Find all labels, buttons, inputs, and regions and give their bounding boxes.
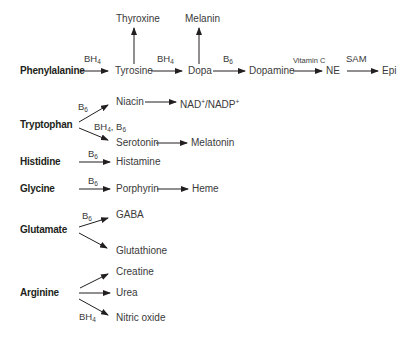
cofactor-bh4-b6-serotonin: BH4, B6 <box>94 121 126 135</box>
melatonin-label: Melatonin <box>191 137 234 149</box>
arginine-label: Arginine <box>20 287 59 299</box>
niacin-label: Niacin <box>116 96 144 108</box>
dopamine-label: Dopamine <box>249 65 295 77</box>
cofactor-sam: SAM <box>346 53 367 64</box>
arrow-arg-creatine <box>80 274 108 288</box>
nitric-oxide-label: Nitric oxide <box>116 312 165 324</box>
melanin-label: Melanin <box>185 13 220 25</box>
urea-label: Urea <box>116 287 138 299</box>
cofactor-bh4-dopa: BH4 <box>157 53 174 67</box>
cofactor-bh4-nitric-oxide: BH4 <box>79 311 96 325</box>
cofactor-vitamin-c: Vitamin C <box>293 55 325 66</box>
porphyrin-label: Porphyrin <box>116 183 159 195</box>
histidine-label: Histidine <box>20 156 60 168</box>
creatine-label: Creatine <box>116 266 154 278</box>
cofactor-b6-histamine: B6 <box>88 148 98 162</box>
dopa-label: Dopa <box>188 65 212 77</box>
arrow-glu-glutathione <box>79 233 107 248</box>
cofactor-b6-gaba: B6 <box>82 210 92 224</box>
cofactor-b6-dopamine: B6 <box>223 53 233 67</box>
tyrosine-label: Tyrosine <box>115 65 153 77</box>
phenylalanine-label: Phenylalanine <box>20 65 85 77</box>
glycine-label: Glycine <box>20 183 55 195</box>
cofactor-bh4-tyrosine: BH4 <box>84 53 101 67</box>
glutamate-label: Glutamate <box>20 224 67 236</box>
ne-label: NE <box>326 65 340 77</box>
histamine-label: Histamine <box>116 156 160 168</box>
tryptophan-label: Tryptophan <box>20 119 72 131</box>
gaba-label: GABA <box>116 209 144 221</box>
cofactor-b6-niacin: B6 <box>78 101 88 115</box>
serotonin-label: Serotonin <box>116 137 159 149</box>
epi-label: Epi <box>382 65 396 77</box>
glutathione-label: Glutathione <box>116 245 167 257</box>
heme-label: Heme <box>192 183 219 195</box>
nad-nadp-label: NAD+/NADP+ <box>180 96 239 111</box>
arrows-layer <box>0 0 409 343</box>
thyroxine-label: Thyroxine <box>116 13 160 25</box>
cofactor-b6-porphyrin: B6 <box>88 175 98 189</box>
